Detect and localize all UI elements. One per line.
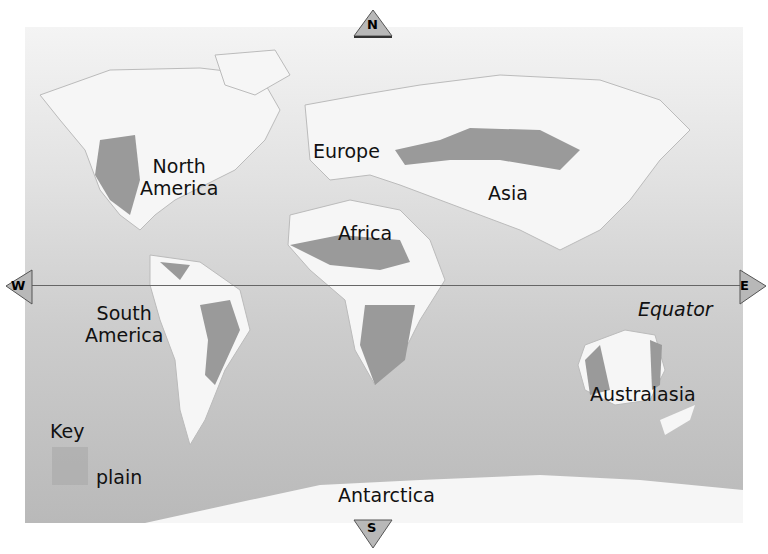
label-line: North (140, 155, 218, 177)
key-swatch-plain (52, 447, 88, 485)
key-label-plain: plain (96, 466, 142, 488)
label-asia: Asia (488, 182, 528, 204)
label-australasia: Australasia (590, 383, 696, 405)
equator-line (14, 285, 754, 286)
compass-east: E (740, 278, 749, 293)
south-america-land (150, 255, 250, 445)
label-line: America (140, 177, 218, 199)
north-america-land (40, 68, 280, 230)
label-south-america: South America (85, 302, 163, 346)
label-line: America (85, 324, 163, 346)
antarctica-land (145, 475, 743, 523)
north-america-plain (95, 135, 140, 215)
compass-north: N (367, 17, 378, 32)
compass-south: S (367, 520, 376, 535)
label-equator: Equator (638, 298, 713, 320)
key-title: Key (50, 420, 84, 442)
label-north-america: North America (140, 155, 218, 199)
label-europe: Europe (313, 140, 380, 162)
label-line: South (85, 302, 163, 324)
label-antarctica: Antarctica (338, 484, 435, 506)
label-africa: Africa (338, 222, 392, 244)
compass-west: W (11, 278, 25, 293)
